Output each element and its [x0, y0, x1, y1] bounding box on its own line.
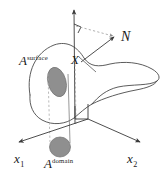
label-area-surface: Asurface: [19, 54, 48, 67]
domain-area-patch: [50, 137, 71, 157]
label-axis-x1-base: x: [14, 151, 20, 166]
right-angle-marker: [74, 24, 81, 33]
label-area-domain-base: A: [44, 156, 52, 171]
label-area-surface-superscript: surface: [27, 54, 48, 61]
label-axis-x1: x1: [14, 152, 24, 169]
label-axis-x2-subscript: 2: [133, 160, 138, 169]
label-axis-x1-subscript: 1: [20, 160, 25, 169]
diagram-svg: [0, 0, 166, 178]
label-axis-x2-base: x: [127, 151, 133, 166]
label-normal-vector: N: [121, 30, 130, 44]
label-axis-x2: x2: [127, 152, 137, 169]
axis-x2: [88, 119, 140, 142]
tangent-line-at-x: [79, 57, 96, 72]
axis-x1: [19, 119, 88, 142]
figure-canvas: N X Asurface Adomain x1 x2: [0, 0, 166, 178]
label-point-x: X: [71, 53, 79, 66]
surface-right-lobe: [92, 81, 157, 104]
projection-line-right: [68, 74, 70, 143]
normal-vector-arrow: [81, 37, 114, 62]
label-area-domain-superscript: domain: [52, 157, 73, 164]
normal-construction-dash: [76, 26, 113, 36]
base-axes: [19, 104, 140, 142]
label-area-domain: Adomain: [44, 157, 73, 170]
label-area-surface-base: A: [19, 53, 27, 68]
